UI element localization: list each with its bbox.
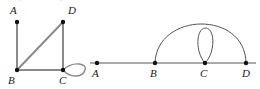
label-a-left: A bbox=[9, 4, 17, 16]
vertex-b-left bbox=[15, 68, 19, 72]
label-d-right: D bbox=[241, 67, 250, 79]
vertex-b-right bbox=[153, 61, 157, 65]
label-d-left: D bbox=[67, 4, 76, 16]
right-graph: A B C D bbox=[90, 24, 256, 79]
edge-b-d bbox=[17, 22, 63, 70]
label-c-left: C bbox=[59, 74, 67, 86]
loop-at-c-left bbox=[63, 64, 85, 76]
label-b-right: B bbox=[150, 67, 157, 79]
figure-root: Graphs and Loops A D B C A bbox=[0, 0, 260, 89]
vertex-d-right bbox=[244, 61, 248, 65]
vertex-a-left bbox=[15, 20, 19, 24]
label-a-right: A bbox=[91, 67, 99, 79]
label-b-left: B bbox=[8, 74, 15, 86]
vertex-c-left bbox=[61, 68, 65, 72]
left-graph: A D B C bbox=[8, 4, 85, 86]
label-c-right: C bbox=[200, 67, 208, 79]
loop-at-c-right bbox=[198, 28, 213, 63]
graph-canvas: A D B C A B C D bbox=[0, 0, 260, 89]
vertex-a-right bbox=[95, 61, 99, 65]
vertex-c-right bbox=[203, 61, 207, 65]
vertex-d-left bbox=[61, 20, 65, 24]
